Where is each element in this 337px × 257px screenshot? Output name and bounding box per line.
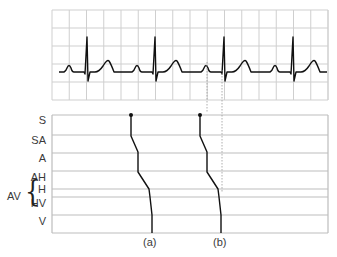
- ladder-grid: [52, 115, 328, 233]
- label-sa: SA: [16, 135, 46, 146]
- brace-icon: {: [25, 176, 40, 206]
- diagram-canvas: [0, 0, 337, 257]
- trace-label-b: (b): [213, 236, 226, 248]
- label-v: V: [16, 216, 46, 227]
- ecg-waveform: [59, 37, 327, 81]
- label-s: S: [16, 115, 46, 126]
- ecg-ladder-diagram: S SA A AH H HV V AV { (a) (b): [0, 0, 337, 257]
- label-a: A: [16, 153, 46, 164]
- label-av-group: AV: [7, 191, 21, 202]
- trace-label-a: (a): [143, 236, 156, 248]
- ecg-grid: [52, 10, 328, 100]
